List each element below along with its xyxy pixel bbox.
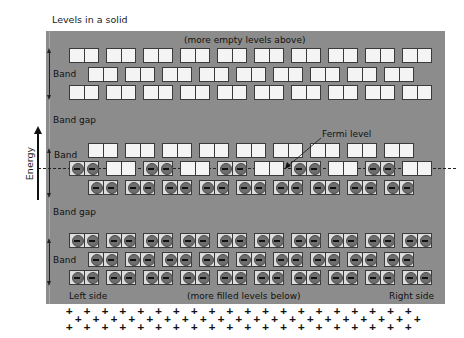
left-side-label: Left side (69, 291, 107, 301)
positive-ion-row: + + + + + + + + + + + + + + + + + + + + (66, 321, 414, 332)
fermi-level-pointer-arrow (0, 0, 464, 338)
right-side-label: Right side (389, 291, 434, 301)
energy-axis-label: Energy (24, 144, 35, 184)
up-arrow-icon (37, 128, 39, 200)
more-filled-levels-label: (more filled levels below) (187, 291, 301, 301)
